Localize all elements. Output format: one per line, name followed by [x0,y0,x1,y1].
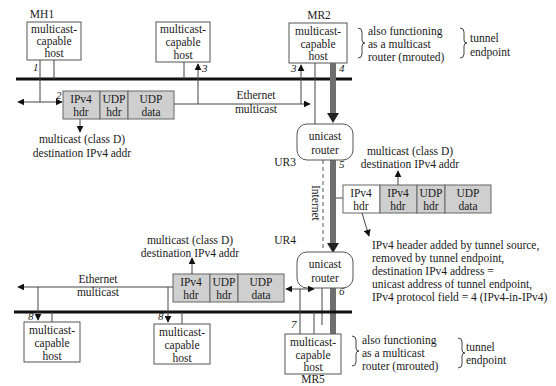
internet-label: Internet [310,185,322,222]
svg-text:hdr: hdr [353,200,369,212]
host-mr2-name: MR2 [307,9,331,21]
mr5-tunnel-brace [458,338,465,368]
svg-text:router (mrouted): router (mrouted) [368,51,445,64]
mr2-role-brace [358,28,365,58]
router-ur3-name: UR3 [274,156,296,168]
svg-text:hdr: hdr [73,106,89,118]
svg-text:host: host [173,49,193,61]
tunnel-segment-internet [330,155,336,245]
mr5-role-label: also functioning [362,334,437,347]
tunnel-note: IPv4 header added by tunnel source, [372,239,539,252]
top-ethernet-label: Ethernet [237,89,277,101]
svg-text:unicast: unicast [309,258,342,270]
svg-text:destination IPv4 addr: destination IPv4 addr [33,147,132,159]
svg-text:host: host [44,47,64,59]
svg-text:multicast-: multicast- [159,326,205,338]
mr5-role-brace [352,336,359,366]
svg-text:IPv4: IPv4 [180,276,202,288]
svg-text:IPv4 protocol field = 4 (IPv4-: IPv4 protocol field = 4 (IPv4-in-IPv4) [372,291,548,304]
svg-text:router: router [311,272,339,284]
tunnel-packet: IPv4 hdr IPv4 hdr UDP hdr UDP data [343,185,491,213]
svg-text:hdr: hdr [183,289,199,301]
step-5-label: 5 [339,158,345,170]
step-7-label: 7 [291,318,297,330]
svg-text:data: data [458,200,477,212]
svg-text:capable: capable [164,339,199,352]
svg-text:multicast: multicast [77,286,120,298]
svg-text:capable: capable [34,337,69,350]
svg-text:IPv4: IPv4 [387,187,409,199]
mr5-tunnel-label: tunnel [466,341,495,353]
tunnel-segment-mr2-ur3 [330,63,336,115]
svg-text:multicast-: multicast- [29,324,75,336]
svg-text:UDP: UDP [249,276,272,288]
svg-text:host: host [42,350,62,362]
host-mr2: MR2 multicast- capable host [289,9,347,104]
svg-text:UDP: UDP [419,187,442,199]
svg-text:hdr: hdr [106,106,122,118]
svg-text:as a multicast: as a multicast [362,347,425,359]
svg-text:multicast-: multicast- [290,336,336,348]
bottom-dest-label: multicast (class D) [147,234,233,247]
host-mh1: MH1 multicast- capable host [27,8,81,102]
svg-text:IPv4: IPv4 [70,93,92,105]
top-dest-label: multicast (class D) [39,133,125,146]
step-6-label: 6 [339,285,345,297]
step-8a-label: 8 [28,310,34,322]
svg-text:UDP: UDP [139,93,162,105]
step-4-label: 4 [339,62,345,74]
top-packet: IPv4 hdr UDP hdr UDP data [63,91,174,119]
svg-text:hdr: hdr [423,200,439,212]
mr2-role-label: also functioning [368,25,443,38]
svg-text:endpoint: endpoint [470,46,511,59]
svg-text:as a multicast: as a multicast [368,38,431,50]
svg-text:host: host [308,50,328,62]
svg-text:hdr: hdr [216,289,232,301]
svg-text:data: data [251,289,270,301]
step-3-label: 3 [201,62,208,74]
multicast-tunnel-diagram: MH1 multicast- capable host 1 2 IPv4 hdr… [0,0,556,386]
tunnel-dest-label: multicast (class D) [367,145,453,158]
svg-text:multicast-: multicast- [295,25,341,37]
router-ur4-name: UR4 [274,234,296,246]
svg-text:unicast: unicast [309,130,342,142]
host-bottom-left: multicast- capable host [24,287,80,362]
router-ur3: unicast router [297,124,353,160]
tunnel-note-pointer [362,213,369,236]
svg-text:host: host [303,361,323,373]
step-8b-label: 8 [158,310,164,322]
router-ur4: unicast router [297,252,353,288]
svg-text:UDP: UDP [212,276,235,288]
host-mh1-name: MH1 [30,8,55,20]
svg-text:unicast address of tunnel endp: unicast address of tunnel endpoint, [372,278,532,291]
svg-text:hdr: hdr [390,200,406,212]
mr2-tunnel-label: tunnel [470,32,499,44]
svg-text:UDP: UDP [102,93,125,105]
host-mr5-name: MR5 [301,373,325,385]
svg-text:data: data [141,106,160,118]
svg-text:multicast-: multicast- [31,23,77,35]
svg-text:destination IPv4 addr: destination IPv4 addr [141,247,240,259]
bottom-ethernet-label: Ethernet [79,273,119,285]
svg-text:destination IPv4 addr: destination IPv4 addr [361,158,460,170]
mr2-tunnel-brace [460,28,467,58]
svg-text:capable: capable [165,36,200,49]
step-3b-label: 3 [290,62,297,74]
svg-text:removed by tunnel endpoint,: removed by tunnel endpoint, [372,252,504,265]
bottom-packet: IPv4 hdr UDP hdr UDP data [173,274,284,302]
svg-text:destination IPv4 address =: destination IPv4 address = [372,265,494,277]
svg-text:IPv4: IPv4 [350,187,372,199]
svg-text:endpoint: endpoint [466,354,507,367]
svg-text:router (mrouted): router (mrouted) [362,360,439,373]
svg-text:router: router [311,144,339,156]
svg-text:UDP: UDP [456,187,479,199]
svg-text:multicast-: multicast- [160,23,206,35]
step-1-label: 1 [33,61,39,73]
step-2-label: 2 [56,89,62,101]
svg-text:host: host [172,352,192,364]
svg-text:multicast: multicast [235,103,278,115]
